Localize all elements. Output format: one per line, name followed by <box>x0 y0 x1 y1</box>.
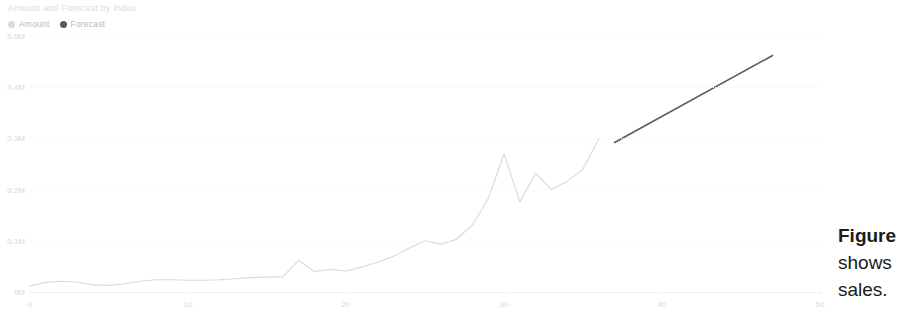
x-axis-tick-mark <box>30 292 31 295</box>
series-lines <box>30 36 820 292</box>
x-axis-tick-label: 0 <box>28 300 32 309</box>
x-axis-tick-label: 20 <box>342 300 351 309</box>
y-gridline <box>30 87 820 88</box>
legend-item-forecast[interactable]: Forecast <box>60 19 106 29</box>
x-axis-tick-mark <box>346 292 347 295</box>
y-axis-tick-label: 0.2M <box>7 185 25 194</box>
y-axis-tick-label: 0.1M <box>7 236 25 245</box>
y-axis-tick-label: 0.4M <box>7 83 25 92</box>
overlay-document-text: Figure shows sales. <box>838 222 898 303</box>
x-axis-tick-label: 40 <box>658 300 667 309</box>
x-axis-tick-label: 10 <box>184 300 193 309</box>
x-axis-tick-mark <box>820 292 821 295</box>
legend-label-amount: Amount <box>19 19 50 29</box>
legend-label-forecast: Forecast <box>71 19 106 29</box>
series-line-amount <box>30 138 599 285</box>
x-axis-tick-mark <box>504 292 505 295</box>
plot-area: 0M0.1M0.2M0.3M0.4M0.5M01020304050 <box>30 36 820 292</box>
line-chart-widget: Amount and Forecast by Index Amount Fore… <box>0 0 830 326</box>
legend-item-amount[interactable]: Amount <box>8 19 50 29</box>
y-gridline <box>30 241 820 242</box>
y-gridline <box>30 36 820 37</box>
y-gridline <box>30 138 820 139</box>
overlay-text-line-3: sales. <box>838 276 898 303</box>
overlay-text-line-1: Figure <box>838 222 898 249</box>
y-gridline <box>30 292 820 293</box>
chart-title: Amount and Forecast by Index <box>8 3 136 13</box>
y-axis-tick-label: 0.5M <box>7 32 25 41</box>
x-axis-tick-mark <box>188 292 189 295</box>
circle-marker-icon <box>8 21 15 28</box>
series-line-forecast <box>615 55 773 142</box>
x-axis-tick-label: 30 <box>500 300 509 309</box>
x-axis-tick-mark <box>662 292 663 295</box>
circle-marker-icon <box>60 21 67 28</box>
y-axis-tick-label: 0M <box>14 288 25 297</box>
y-gridline <box>30 190 820 191</box>
chart-legend: Amount Forecast <box>8 19 105 29</box>
overlay-text-line-2: shows <box>838 249 898 276</box>
y-axis-tick-label: 0.3M <box>7 134 25 143</box>
x-axis-tick-label: 50 <box>816 300 825 309</box>
